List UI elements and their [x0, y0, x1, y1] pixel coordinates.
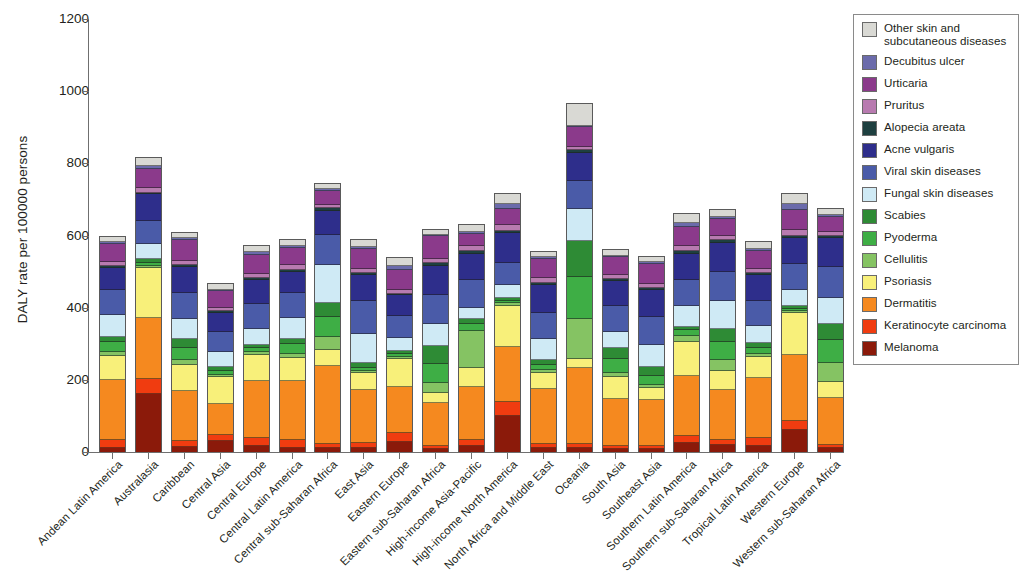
- bar-segment[interactable]: [818, 324, 843, 340]
- bar-segment[interactable]: [567, 277, 592, 318]
- bar-segment[interactable]: [567, 209, 592, 241]
- bar-segment[interactable]: [351, 239, 376, 247]
- bar-segment[interactable]: [387, 359, 412, 387]
- bar-segment[interactable]: [136, 157, 161, 166]
- legend-item[interactable]: Alopecia areata: [860, 120, 1013, 136]
- bar-segment[interactable]: [710, 445, 735, 452]
- bar-segment[interactable]: [639, 449, 664, 452]
- stacked-bar[interactable]: [314, 183, 341, 452]
- stacked-bar[interactable]: [279, 239, 306, 452]
- bar-segment[interactable]: [100, 290, 125, 315]
- bar-segment[interactable]: [315, 211, 340, 235]
- bar-segment[interactable]: [136, 379, 161, 394]
- bar-segment[interactable]: [387, 433, 412, 442]
- bar-segment[interactable]: [100, 315, 125, 337]
- bar-segment[interactable]: [782, 210, 807, 230]
- bar-segment[interactable]: [315, 337, 340, 349]
- stacked-bar[interactable]: [709, 209, 736, 452]
- bar-segment[interactable]: [495, 209, 520, 225]
- bar-segment[interactable]: [782, 421, 807, 430]
- bar-segment[interactable]: [710, 360, 735, 371]
- bar-segment[interactable]: [782, 355, 807, 421]
- bar-segment[interactable]: [639, 388, 664, 400]
- stacked-bar[interactable]: [781, 193, 808, 452]
- bar-segment[interactable]: [459, 308, 484, 320]
- bar-segment[interactable]: [280, 344, 305, 354]
- bar-segment[interactable]: [172, 447, 197, 452]
- bar-segment[interactable]: [603, 377, 628, 399]
- bar-segment[interactable]: [244, 304, 269, 329]
- bar-segment[interactable]: [495, 193, 520, 204]
- bar-segment[interactable]: [710, 272, 735, 302]
- bar-segment[interactable]: [172, 240, 197, 261]
- bar-segment[interactable]: [818, 448, 843, 452]
- stacked-bar[interactable]: [135, 157, 162, 452]
- bar-segment[interactable]: [280, 272, 305, 294]
- bar-segment[interactable]: [639, 345, 664, 367]
- bar-segment[interactable]: [315, 265, 340, 303]
- bar-segment[interactable]: [603, 257, 628, 274]
- bar-segment[interactable]: [172, 348, 197, 360]
- bar-segment[interactable]: [567, 153, 592, 181]
- bar-segment[interactable]: [315, 366, 340, 444]
- bar-segment[interactable]: [315, 448, 340, 452]
- stacked-bar[interactable]: [494, 193, 521, 452]
- bar-segment[interactable]: [351, 448, 376, 452]
- stacked-bar[interactable]: [350, 239, 377, 452]
- bar-segment[interactable]: [423, 324, 448, 346]
- bar-segment[interactable]: [244, 446, 269, 452]
- bar-segment[interactable]: [244, 245, 269, 252]
- bar-segment[interactable]: [746, 326, 771, 343]
- bar-segment[interactable]: [603, 399, 628, 446]
- bar-segment[interactable]: [136, 194, 161, 221]
- bar-segment[interactable]: [603, 306, 628, 332]
- bar-segment[interactable]: [172, 365, 197, 391]
- bar-segment[interactable]: [639, 367, 664, 376]
- bar-segment[interactable]: [782, 193, 807, 204]
- bar-segment[interactable]: [244, 280, 269, 304]
- bar-segment[interactable]: [531, 389, 556, 444]
- bar-segment[interactable]: [351, 390, 376, 443]
- bar-segment[interactable]: [351, 275, 376, 301]
- bar-segment[interactable]: [244, 381, 269, 439]
- bar-segment[interactable]: [208, 313, 233, 332]
- stacked-bar[interactable]: [99, 236, 126, 453]
- legend-item[interactable]: Other skin and subcutaneous diseases: [860, 21, 1013, 48]
- bar-segment[interactable]: [818, 208, 843, 215]
- stacked-bar[interactable]: [817, 208, 844, 452]
- bar-segment[interactable]: [746, 378, 771, 437]
- bar-segment[interactable]: [100, 448, 125, 452]
- bar-segment[interactable]: [567, 448, 592, 452]
- legend-item[interactable]: Melanoma: [860, 340, 1013, 356]
- bar-segment[interactable]: [315, 317, 340, 337]
- bar-segment[interactable]: [136, 394, 161, 452]
- bar-segment[interactable]: [746, 241, 771, 248]
- bar-segment[interactable]: [280, 293, 305, 318]
- bar-segment[interactable]: [208, 404, 233, 435]
- bar-segment[interactable]: [387, 295, 412, 316]
- bar-segment[interactable]: [674, 254, 699, 280]
- bar-segment[interactable]: [387, 338, 412, 351]
- bar-segment[interactable]: [782, 313, 807, 355]
- bar-segment[interactable]: [100, 380, 125, 440]
- bar-segment[interactable]: [567, 104, 592, 126]
- bar-segment[interactable]: [746, 301, 771, 326]
- bar-segment[interactable]: [244, 255, 269, 274]
- legend-item[interactable]: Fungal skin diseases: [860, 186, 1013, 202]
- bar-segment[interactable]: [674, 443, 699, 452]
- bar-segment[interactable]: [351, 373, 376, 390]
- bar-segment[interactable]: [531, 285, 556, 312]
- bar-segment[interactable]: [351, 301, 376, 334]
- bar-segment[interactable]: [172, 339, 197, 348]
- legend-item[interactable]: Urticaria: [860, 76, 1013, 92]
- bar-segment[interactable]: [818, 398, 843, 445]
- bar-segment[interactable]: [315, 303, 340, 317]
- bar-segment[interactable]: [136, 268, 161, 318]
- bar-segment[interactable]: [172, 293, 197, 319]
- bar-segment[interactable]: [136, 318, 161, 379]
- bar-segment[interactable]: [531, 339, 556, 359]
- bar-segment[interactable]: [136, 244, 161, 260]
- bar-segment[interactable]: [567, 181, 592, 208]
- legend-item[interactable]: Cellulitis: [860, 252, 1013, 268]
- bar-segment[interactable]: [567, 241, 592, 278]
